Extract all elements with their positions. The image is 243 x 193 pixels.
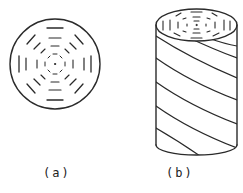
panel-b-cylinder <box>156 9 237 156</box>
panel-b-label: (b) <box>166 166 194 180</box>
panel-a-disk <box>10 19 100 109</box>
diagram-canvas <box>0 0 243 193</box>
panel-a-label: (a) <box>43 166 71 180</box>
